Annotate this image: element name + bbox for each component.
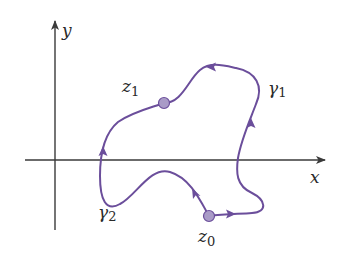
z0-label: z0 — [197, 226, 215, 249]
z0-label-sub: 0 — [207, 234, 215, 249]
point-z0 — [204, 211, 215, 222]
z1-label-sub: 1 — [131, 84, 139, 99]
contour-diagram: y x z1 z0 γ1 γ2 — [0, 0, 339, 259]
arrow-up-icon — [99, 146, 108, 156]
y-axis-label: y — [61, 20, 72, 40]
gamma2-label-sub: 2 — [108, 209, 116, 224]
gamma1-path — [164, 65, 263, 216]
arrow-left-icon — [206, 63, 216, 72]
axes — [25, 21, 325, 230]
gamma1-label-sub: 1 — [278, 85, 286, 100]
point-z1 — [159, 98, 170, 109]
gamma1-label: γ1 — [268, 78, 286, 100]
z1-label: z1 — [121, 76, 139, 99]
x-axis-label: x — [310, 167, 320, 187]
gamma2-label: γ2 — [98, 202, 116, 224]
